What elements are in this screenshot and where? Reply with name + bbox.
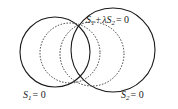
label-family-plus: +: [95, 14, 103, 25]
label-family-sub1: 1: [91, 19, 95, 27]
label-s1-equals: = 0: [32, 89, 47, 100]
label-s2-equals: = 0: [130, 89, 145, 100]
circle-family-left: [40, 23, 100, 83]
circle-s1: [20, 17, 90, 87]
label-s1-sub: 1: [28, 94, 32, 102]
label-family-of-circles: S1+λS2= 0: [86, 15, 130, 27]
label-circle-s2: S2= 0: [121, 90, 145, 102]
label-s2-sub: 2: [126, 94, 130, 102]
label-family-equals: = 0: [115, 14, 130, 25]
geometry-figure: S1+λS2= 0 S1= 0 S2= 0: [0, 0, 178, 109]
label-circle-s1: S1= 0: [23, 90, 47, 102]
circle-family-right: [60, 22, 124, 86]
